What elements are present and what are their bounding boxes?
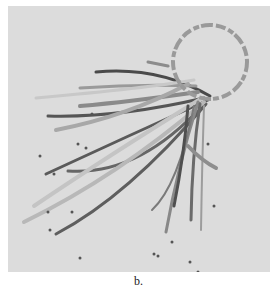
scatter-dot (53, 173, 56, 176)
figure-caption: b. (0, 274, 277, 289)
scatter-dot (189, 261, 192, 264)
scatter-dot (85, 147, 88, 150)
edge-curve (201, 106, 204, 230)
scatter-dot (91, 113, 94, 116)
scatter-dot (71, 211, 74, 214)
edge-curve (24, 102, 204, 222)
node-ring (173, 25, 247, 99)
scatter-dot (213, 205, 216, 208)
scatter-dot (207, 143, 210, 146)
scatter-dot (39, 155, 42, 158)
scatter-dot (171, 241, 174, 244)
figure-panel (8, 6, 270, 272)
network-plot (8, 6, 270, 272)
scatter-dot (157, 255, 160, 258)
scatter-dot (153, 253, 156, 256)
scatter-dot (79, 257, 82, 260)
edge-curve (148, 62, 168, 66)
scatter-dot (49, 229, 52, 232)
scatter-dot (77, 143, 80, 146)
scatter-dot (47, 211, 50, 214)
scatter-dot (197, 271, 200, 273)
